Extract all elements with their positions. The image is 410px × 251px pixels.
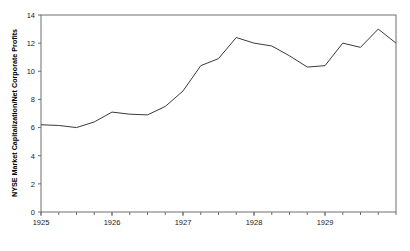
- y-tick-label: 8: [31, 95, 35, 104]
- y-axis-tick-labels: 02468101214: [27, 11, 35, 217]
- y-tick-label: 14: [27, 11, 35, 20]
- data-series-line: [41, 29, 396, 128]
- plot-frame: [41, 15, 396, 212]
- y-tick-label: 2: [31, 180, 35, 189]
- chart-container: 02468101214 19251926192719281929 NYSE Ma…: [0, 0, 410, 251]
- y-tick-label: 4: [31, 152, 35, 161]
- x-tick-label: 1929: [317, 218, 334, 227]
- y-tick-label: 6: [31, 123, 35, 132]
- y-axis-title: NYSE Market Capitalization/Net Corporate…: [10, 29, 19, 197]
- line-chart: 02468101214 19251926192719281929 NYSE Ma…: [0, 0, 410, 251]
- y-axis-title-group: NYSE Market Capitalization/Net Corporate…: [10, 29, 19, 197]
- x-axis-minor-ticks: [41, 212, 396, 215]
- x-tick-label: 1927: [175, 218, 192, 227]
- y-tick-label: 12: [27, 39, 35, 48]
- y-tick-label: 0: [31, 208, 35, 217]
- x-tick-label: 1925: [33, 218, 50, 227]
- x-tick-label: 1926: [104, 218, 121, 227]
- x-axis-tick-labels: 19251926192719281929: [33, 218, 334, 227]
- plot-frame-group: [41, 15, 396, 212]
- x-axis-major-ticks: [41, 212, 325, 216]
- data-series-group: [41, 29, 396, 128]
- y-tick-label: 10: [27, 67, 35, 76]
- x-tick-label: 1928: [246, 218, 263, 227]
